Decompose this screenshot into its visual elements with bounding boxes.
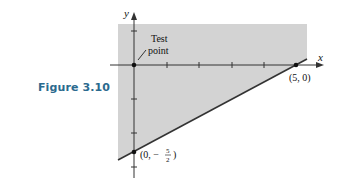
inequality-graph: y x Test point (5, 0) (0, − 5 2 ) xyxy=(0,0,348,186)
y-axis-arrow-icon xyxy=(131,12,137,20)
y-axis-label: y xyxy=(123,7,129,19)
x-axis-label: x xyxy=(317,51,323,63)
test-label-line1: Test xyxy=(151,33,168,44)
test-point-dot xyxy=(132,63,137,68)
point-5-0-dot xyxy=(294,63,299,68)
svg-text:2: 2 xyxy=(166,156,170,164)
svg-text:5: 5 xyxy=(166,147,170,155)
svg-text:(0, −: (0, − xyxy=(140,149,159,161)
shaded-region xyxy=(118,24,307,160)
point-0-neg-label: (0, − 5 2 ) xyxy=(140,147,176,164)
point-0-neg-dot xyxy=(132,150,137,155)
point-5-0-label: (5, 0) xyxy=(289,72,311,84)
svg-text:): ) xyxy=(173,149,176,161)
test-label-line2: point xyxy=(148,45,169,56)
